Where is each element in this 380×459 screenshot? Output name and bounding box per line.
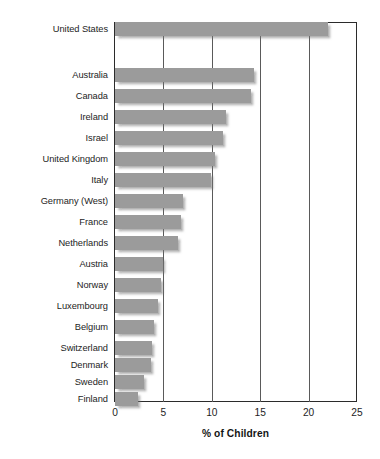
category-label: Ireland bbox=[0, 112, 108, 123]
x-axis-ticks: 0510152025 bbox=[0, 402, 380, 422]
bar-row bbox=[115, 236, 357, 250]
bar-row bbox=[115, 173, 357, 187]
category-label: Denmark bbox=[0, 360, 108, 371]
bar bbox=[115, 341, 152, 355]
bar bbox=[115, 358, 151, 372]
bar bbox=[115, 131, 223, 145]
x-tick-label: 15 bbox=[245, 407, 275, 418]
category-label: Italy bbox=[0, 175, 108, 186]
bar-row bbox=[115, 299, 357, 313]
x-tick-label: 10 bbox=[197, 407, 227, 418]
bar bbox=[115, 299, 158, 313]
bar bbox=[115, 152, 215, 166]
bar bbox=[115, 215, 181, 229]
category-label: Belgium bbox=[0, 322, 108, 333]
bar bbox=[115, 89, 251, 103]
category-label: Australia bbox=[0, 70, 108, 81]
bar-row bbox=[115, 358, 357, 372]
bar-row bbox=[115, 257, 357, 271]
x-axis-title: % of Children bbox=[114, 428, 357, 439]
category-label: Germany (West) bbox=[0, 196, 108, 207]
bar bbox=[115, 173, 211, 187]
bar bbox=[115, 194, 183, 208]
bar bbox=[115, 22, 328, 36]
bar-row bbox=[115, 110, 357, 124]
category-label: United States bbox=[0, 24, 108, 35]
bar bbox=[115, 320, 154, 334]
x-tick-label: 25 bbox=[342, 407, 372, 418]
bar-row bbox=[115, 68, 357, 82]
bar-row bbox=[115, 131, 357, 145]
bar-row bbox=[115, 375, 357, 389]
bar bbox=[115, 110, 226, 124]
category-label: Netherlands bbox=[0, 238, 108, 249]
bar bbox=[115, 257, 163, 271]
category-label: United Kingdom bbox=[0, 154, 108, 165]
bar-row bbox=[115, 194, 357, 208]
bar bbox=[115, 68, 254, 82]
x-tick-label: 5 bbox=[148, 407, 178, 418]
category-label: Switzerland bbox=[0, 343, 108, 354]
bar bbox=[115, 375, 144, 389]
category-labels: United StatesAustraliaCanadaIrelandIsrae… bbox=[0, 22, 108, 402]
bars-layer bbox=[115, 22, 357, 402]
bar-row bbox=[115, 278, 357, 292]
bar bbox=[115, 278, 161, 292]
category-label: Norway bbox=[0, 280, 108, 291]
category-label: Sweden bbox=[0, 377, 108, 388]
x-tick-label: 20 bbox=[294, 407, 324, 418]
bar bbox=[115, 236, 178, 250]
category-label: Canada bbox=[0, 91, 108, 102]
bar-row bbox=[115, 22, 357, 36]
category-label: Luxembourg bbox=[0, 301, 108, 312]
x-tick-label: 0 bbox=[100, 407, 130, 418]
category-label: Israel bbox=[0, 133, 108, 144]
bar-row bbox=[115, 152, 357, 166]
category-label: Austria bbox=[0, 259, 108, 270]
bar-row bbox=[115, 341, 357, 355]
category-label: France bbox=[0, 217, 108, 228]
bar-row bbox=[115, 215, 357, 229]
bar-row bbox=[115, 89, 357, 103]
bar-chart: United StatesAustraliaCanadaIrelandIsrae… bbox=[0, 0, 380, 459]
bar-row bbox=[115, 320, 357, 334]
